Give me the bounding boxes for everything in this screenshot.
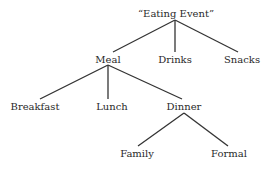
node-dinner: Dinner bbox=[167, 101, 202, 113]
node-meal: Meal bbox=[95, 54, 120, 66]
tree-edges bbox=[0, 0, 270, 170]
node-snacks: Snacks bbox=[224, 54, 260, 66]
edge-meal-breakfast bbox=[40, 65, 108, 99]
node-eating-event: “Eating Event” bbox=[138, 8, 214, 20]
edge-root-snacks bbox=[175, 20, 238, 52]
edge-root-meal bbox=[113, 20, 175, 52]
node-family: Family bbox=[120, 148, 154, 160]
node-lunch: Lunch bbox=[96, 101, 128, 113]
edge-dinner-family bbox=[138, 113, 184, 146]
node-formal: Formal bbox=[211, 148, 247, 160]
edge-meal-dinner bbox=[108, 65, 182, 99]
edge-dinner-formal bbox=[184, 113, 228, 146]
node-drinks: Drinks bbox=[158, 54, 192, 66]
taxonomy-tree-diagram: “Eating Event” Meal Drinks Snacks Breakf… bbox=[0, 0, 270, 170]
node-breakfast: Breakfast bbox=[11, 101, 60, 113]
